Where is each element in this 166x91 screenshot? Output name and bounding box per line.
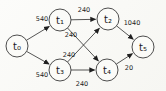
edge-weight-t0-t1: 540 [36,15,48,23]
edge-weight-t0-t3: 540 [36,71,48,79]
node-t4: t₄ [96,59,118,81]
edge-t3-t4: 240 [71,70,95,88]
graph-svg: 540 540 240 240 240 240 1040 20 [0,0,166,91]
edge-t1-t2: 240 [71,6,96,20]
node-label-t1: t₁ [56,15,64,26]
edge-t0-t1: 540 [26,15,49,41]
edge-t4-t5: 20 [116,54,133,72]
node-label-t0: t₀ [13,41,21,52]
edge-weight-t3-t2: 240 [63,51,75,59]
edge-weight-t3-t4: 240 [76,80,88,88]
node-label-t5: t₅ [139,42,147,53]
node-t5: t₅ [132,36,154,58]
edge-t0-t3: 540 [27,51,49,78]
node-t2: t₂ [97,8,119,30]
node-label-t4: t₄ [103,65,111,76]
node-label-t2: t₂ [104,14,112,25]
edge-weight-t1-t4: 240 [65,31,77,39]
node-t3: t₃ [49,59,71,81]
edge-weight-t2-t5: 1040 [124,19,141,27]
node-t0: t₀ [6,35,28,57]
node-t1: t₁ [49,9,71,31]
node-label-t3: t₃ [56,65,64,76]
edge-weight-t1-t2: 240 [78,6,90,14]
task-graph-diagram: 540 540 240 240 240 240 1040 20 [0,0,166,91]
edge-t2-t5: 1040 [117,19,141,40]
edge-weight-t4-t5: 20 [125,64,133,72]
